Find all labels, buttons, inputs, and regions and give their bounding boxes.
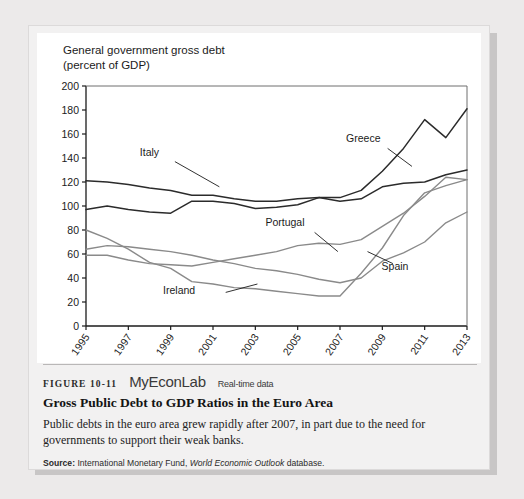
figure-header-line: FIGURE 10-11 MyEconLab Real-time data xyxy=(43,373,477,390)
y-tick-label: 120 xyxy=(61,176,79,188)
x-tick-label: 2013 xyxy=(449,331,472,357)
y-tick-label: 80 xyxy=(67,224,79,236)
y-tick-label: 100 xyxy=(61,200,79,212)
x-tick-label: 2003 xyxy=(238,331,261,357)
series-label-spain: Spain xyxy=(382,260,409,272)
source-publication: World Economic Outlook xyxy=(190,458,285,468)
x-tick-label: 2001 xyxy=(195,331,218,357)
x-tick-label: 2009 xyxy=(365,331,388,357)
source-label: Source: xyxy=(43,458,75,468)
chart-panel: General government gross debt(percent of… xyxy=(37,33,481,363)
leader-line-italy xyxy=(175,162,219,187)
x-tick-label: 2007 xyxy=(322,331,345,357)
x-tick-label: 1999 xyxy=(153,331,176,357)
series-line-ireland xyxy=(86,180,467,296)
y-tick-label: 140 xyxy=(61,152,79,164)
source-suffix: database. xyxy=(287,458,325,468)
x-tick-label: 2005 xyxy=(280,331,303,357)
y-tick-label: 160 xyxy=(61,128,79,140)
x-tick-label: 1997 xyxy=(111,331,134,357)
series-label-ireland: Ireland xyxy=(163,284,195,296)
y-tick-label: 20 xyxy=(67,296,79,308)
figure-number: FIGURE 10-11 xyxy=(43,379,117,389)
y-tick-label: 0 xyxy=(73,320,79,332)
y-tick-label: 180 xyxy=(61,104,79,116)
series-line-greece xyxy=(86,109,467,213)
figure-page: General government gross debt(percent of… xyxy=(0,0,524,499)
figure-title: Gross Public Debt to GDP Ratios in the E… xyxy=(43,395,477,411)
line-chart: 0204060801001201401601802001995199719992… xyxy=(37,33,481,363)
series-label-greece: Greece xyxy=(346,132,381,144)
y-tick-label: 60 xyxy=(67,248,79,260)
caption-divider xyxy=(43,364,477,365)
x-tick-label: 1995 xyxy=(68,331,91,357)
x-tick-label: 2011 xyxy=(408,331,431,357)
series-label-portugal: Portugal xyxy=(265,216,304,228)
figure-source: Source: International Monetary Fund, Wor… xyxy=(43,458,477,468)
myeconlab-logo: MyEconLab xyxy=(129,373,206,390)
series-line-italy xyxy=(86,170,467,201)
figure-description: Public debts in the euro area grew rapid… xyxy=(43,416,477,448)
leader-line-portugal xyxy=(315,232,338,251)
y-tick-label: 200 xyxy=(61,80,79,92)
figure-caption-area: FIGURE 10-11 MyEconLab Real-time data Gr… xyxy=(29,364,491,468)
realtime-data-tag: Real-time data xyxy=(218,379,274,389)
series-label-italy: Italy xyxy=(140,146,160,158)
y-tick-label: 40 xyxy=(67,272,79,284)
figure-card: General government gross debt(percent of… xyxy=(28,25,490,470)
leader-line-greece xyxy=(388,148,412,166)
source-org: International Monetary Fund, xyxy=(77,458,187,468)
